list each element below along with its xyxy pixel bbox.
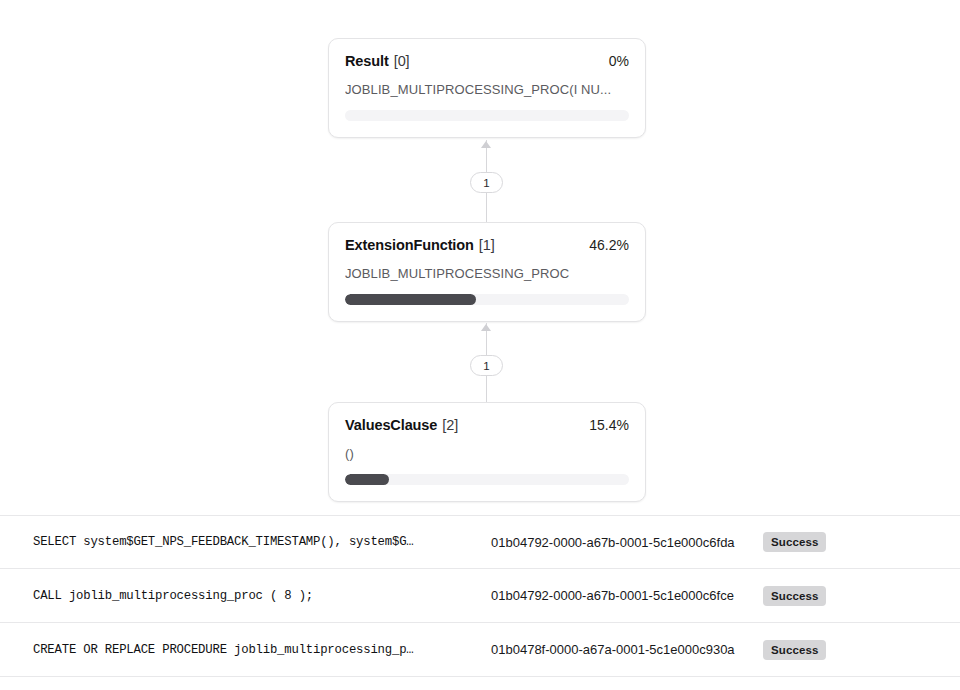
profile-node-extensionfunction[interactable]: ExtensionFunction[1] 46.2% JOBLIB_MULTIP… — [328, 222, 646, 322]
profile-node-title: ValuesClause[2] — [345, 417, 458, 433]
profile-node-detail: JOBLIB_MULTIPROCESSING_PROC — [345, 266, 629, 281]
profile-node-name: ValuesClause — [345, 417, 437, 433]
status-badge: Success — [763, 640, 826, 660]
profile-node-title: ExtensionFunction[1] — [345, 237, 495, 253]
status-badge: Success — [763, 532, 826, 552]
profile-node-name: Result — [345, 53, 389, 69]
profile-node-detail: () — [345, 446, 629, 461]
table-row[interactable]: CREATE OR REPLACE PROCEDURE joblib_multi… — [0, 623, 960, 677]
profile-node-header: Result[0] 0% — [345, 53, 629, 69]
profile-node-percent: 15.4% — [589, 417, 629, 433]
profile-node-progress-fill — [345, 474, 389, 485]
query-id: 01b04792-0000-a67b-0001-5c1e000c6fce — [491, 588, 741, 603]
profile-node-result[interactable]: Result[0] 0% JOBLIB_MULTIPROCESSING_PROC… — [328, 38, 646, 138]
query-text: CALL joblib_multiprocessing_proc ( 8 ); — [33, 589, 491, 603]
status-cell: Success — [741, 640, 960, 660]
profile-node-index: [1] — [479, 237, 495, 253]
query-id: 01b04792-0000-a67b-0001-5c1e000c6fda — [491, 535, 741, 550]
profile-node-valuesclause[interactable]: ValuesClause[2] 15.4% () — [328, 402, 646, 502]
profile-node-index: [0] — [394, 53, 410, 69]
graph-edge-arrow-icon — [481, 324, 491, 331]
profile-node-header: ValuesClause[2] 15.4% — [345, 417, 629, 433]
status-cell: Success — [741, 532, 960, 552]
profile-node-progress-track — [345, 110, 629, 121]
query-text: SELECT system$GET_NPS_FEEDBACK_TIMESTAMP… — [33, 535, 491, 549]
query-id: 01b0478f-0000-a67a-0001-5c1e000c930a — [491, 642, 741, 657]
query-history-table: SELECT system$GET_NPS_FEEDBACK_TIMESTAMP… — [0, 515, 960, 677]
query-profile-graph: Result[0] 0% JOBLIB_MULTIPROCESSING_PROC… — [0, 0, 960, 515]
profile-node-progress-track — [345, 294, 629, 305]
graph-edge-count-badge[interactable]: 1 — [470, 355, 503, 376]
profile-node-index: [2] — [442, 417, 458, 433]
profile-node-header: ExtensionFunction[1] 46.2% — [345, 237, 629, 253]
graph-edge-count-badge[interactable]: 1 — [470, 172, 503, 193]
profile-node-title: Result[0] — [345, 53, 410, 69]
graph-edge-arrow-icon — [481, 141, 491, 148]
profile-node-detail: JOBLIB_MULTIPROCESSING_PROC(I NU... — [345, 82, 629, 97]
table-row[interactable]: SELECT system$GET_NPS_FEEDBACK_TIMESTAMP… — [0, 515, 960, 569]
query-text: CREATE OR REPLACE PROCEDURE joblib_multi… — [33, 643, 491, 657]
profile-node-percent: 46.2% — [589, 237, 629, 253]
profile-node-progress-fill — [345, 294, 476, 305]
table-row[interactable]: CALL joblib_multiprocessing_proc ( 8 ); … — [0, 569, 960, 623]
status-badge: Success — [763, 586, 826, 606]
status-cell: Success — [741, 586, 960, 606]
profile-node-progress-track — [345, 474, 629, 485]
profile-node-percent: 0% — [609, 53, 629, 69]
profile-node-name: ExtensionFunction — [345, 237, 474, 253]
